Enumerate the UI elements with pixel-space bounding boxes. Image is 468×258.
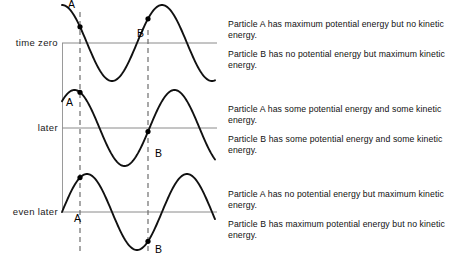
- explanation-block-even-later: Particle A has no potential energy but m…: [228, 189, 466, 240]
- explanation-block-time-zero: Particle A has maximum potential energy …: [228, 19, 466, 70]
- particle-marker-a-row-3: [77, 175, 82, 180]
- statement-particle-a-row-1: Particle A has maximum potential energy …: [228, 19, 466, 40]
- particle-marker-a-row-1: [77, 24, 82, 29]
- row-label-later: later: [0, 123, 58, 133]
- statement-particle-a-row-2: Particle A has some potential energy and…: [228, 104, 466, 125]
- particle-marker-b-row-2: [145, 129, 150, 134]
- row-label-even-later: even later: [0, 207, 58, 217]
- point-label-a-row-3: A: [74, 213, 81, 224]
- particle-marker-b-row-3: [145, 239, 150, 244]
- explanation-block-later: Particle A has some potential energy and…: [228, 104, 466, 155]
- particle-marker-a-row-2: [77, 90, 82, 95]
- statement-particle-b-row-2: Particle B has some potential energy and…: [228, 134, 466, 155]
- point-label-b-row-1: B: [137, 28, 144, 39]
- point-label-b-row-3: B: [155, 244, 162, 255]
- point-label-a-row-2: A: [66, 97, 73, 108]
- statement-particle-a-row-3: Particle A has no potential energy but m…: [228, 189, 466, 210]
- statement-particle-b-row-1: Particle B has no potential energy but m…: [228, 49, 466, 70]
- statement-particle-b-row-3: Particle B has maximum potential energy …: [228, 219, 466, 240]
- particle-marker-b-row-1: [145, 16, 150, 21]
- diagram-canvas: time zero later even later A B A B A B P…: [0, 0, 468, 258]
- point-label-b-row-2: B: [155, 148, 162, 159]
- point-label-a-row-1: A: [68, 0, 75, 10]
- row-label-time-zero: time zero: [0, 38, 58, 48]
